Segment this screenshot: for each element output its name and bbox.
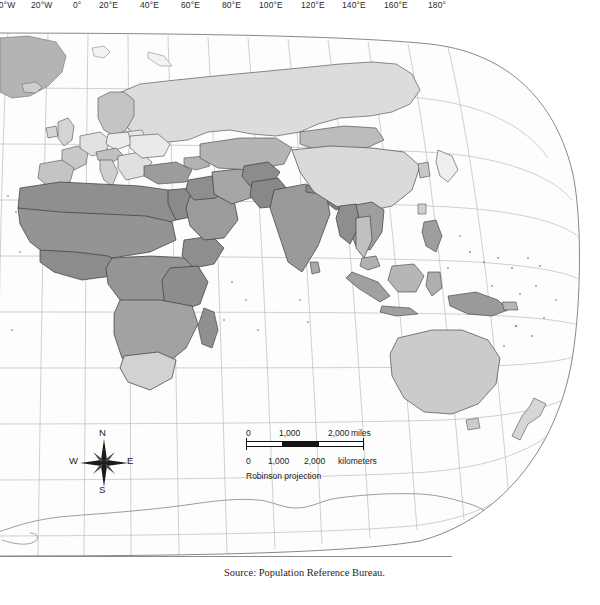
lon-label-60e: 60°E bbox=[181, 0, 200, 10]
compass-label-south: S bbox=[99, 484, 105, 495]
lon-label-100e: 100°E bbox=[259, 0, 283, 10]
scale-km-unit: kilometers bbox=[338, 456, 377, 466]
lon-label-40e: 40°E bbox=[140, 0, 159, 10]
lon-label-160e: 160°E bbox=[384, 0, 408, 10]
lon-label-80e: 80°E bbox=[222, 0, 241, 10]
scale-bar-endcap-right bbox=[363, 438, 364, 450]
lon-label-120e: 120°E bbox=[301, 0, 325, 10]
scale-km-tick-1000: 1,000 bbox=[268, 456, 289, 466]
scale-km-tick-0: 0 bbox=[246, 456, 251, 466]
map-canvas bbox=[0, 0, 600, 605]
scale-bar-graphic bbox=[246, 441, 364, 452]
lon-label-40w: 40°W bbox=[0, 0, 15, 10]
scale-miles-unit: miles bbox=[351, 428, 371, 438]
region-central-asia bbox=[200, 138, 292, 170]
scale-bar-segment-light-1 bbox=[246, 441, 283, 447]
scale-kilometers-row: 0 1,000 2,000 kilometers bbox=[246, 456, 396, 468]
scale-miles-row: 0 1,000 2,000 miles bbox=[246, 428, 396, 440]
lon-label-140e: 140°E bbox=[342, 0, 366, 10]
world-map-figure: 40°W 20°W 0° 20°E 40°E 60°E 80°E 100°E 1… bbox=[0, 0, 600, 605]
scale-miles-tick-1000: 1,000 bbox=[279, 428, 300, 438]
scale-bar-segment-dark-1 bbox=[282, 441, 319, 447]
scale-miles-tick-0: 0 bbox=[246, 428, 251, 438]
island-new-britain bbox=[502, 302, 518, 310]
lon-label-0: 0° bbox=[73, 0, 81, 10]
lon-label-20w: 20°W bbox=[31, 0, 52, 10]
compass-label-west: W bbox=[69, 455, 78, 466]
compass-label-east: E bbox=[127, 455, 133, 466]
region-korea bbox=[418, 162, 430, 178]
country-sri-lanka bbox=[310, 262, 320, 274]
scale-km-tick-2000: 2,000 bbox=[304, 456, 325, 466]
country-ireland bbox=[46, 126, 58, 138]
compass-rose: N S W E bbox=[68, 427, 140, 499]
compass-label-north: N bbox=[99, 427, 106, 438]
scale-bar-endcap-left bbox=[246, 438, 247, 450]
source-credit: Source: Population Reference Bureau. bbox=[224, 567, 385, 578]
scale-bar: 0 1,000 2,000 miles 0 1,000 2,000 kilome… bbox=[246, 428, 396, 486]
island-tasmania bbox=[466, 418, 480, 430]
map-page: 40°W 20°W 0° 20°E 40°E 60°E 80°E 100°E 1… bbox=[0, 0, 600, 605]
scale-miles-tick-2000: 2,000 bbox=[328, 428, 349, 438]
scale-bar-segment-light-2 bbox=[318, 441, 364, 447]
lon-label-20e: 20°E bbox=[99, 0, 118, 10]
lon-label-180: 180° bbox=[428, 0, 446, 10]
island-taiwan bbox=[418, 204, 426, 214]
projection-label: Robinson projection bbox=[246, 471, 321, 481]
